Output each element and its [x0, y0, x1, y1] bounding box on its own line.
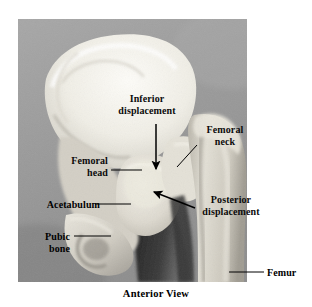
label-femoral-head: Femoral head — [42, 155, 108, 178]
figure-caption: Anterior View — [0, 288, 312, 299]
label-femur: Femur — [267, 267, 309, 279]
label-femoral-neck: Femoral neck — [192, 124, 258, 147]
label-inferior-displacement: Inferior displacement — [104, 93, 190, 116]
anatomy-figure: Inferior displacement Femoral neck Femor… — [0, 0, 312, 307]
clipped-header-text — [20, 0, 140, 4]
label-pubic-bone: Pubic bone — [20, 231, 70, 254]
label-posterior-displacement: Posterior displacement — [186, 194, 276, 217]
label-acetabulum: Acetabulum — [14, 199, 100, 211]
